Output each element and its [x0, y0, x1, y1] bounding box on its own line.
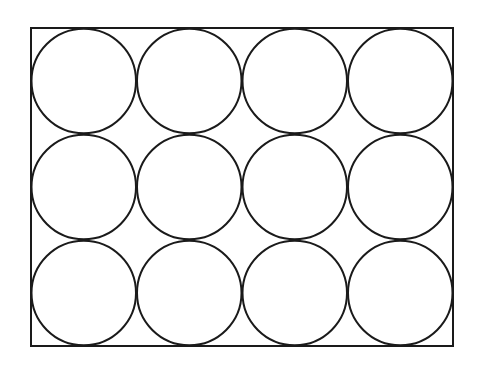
circle [243, 241, 348, 346]
circle-packing-diagram [0, 0, 479, 372]
circle [137, 135, 242, 240]
circle [243, 135, 348, 240]
circle-grid [32, 29, 453, 346]
circle [348, 29, 453, 134]
circle [32, 135, 137, 240]
circle [243, 29, 348, 134]
circle [348, 135, 453, 240]
circle [32, 241, 137, 346]
circle [137, 29, 242, 134]
circle [32, 29, 137, 134]
circle [348, 241, 453, 346]
circle [137, 241, 242, 346]
